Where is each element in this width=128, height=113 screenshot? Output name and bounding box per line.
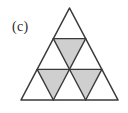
figure-container: (c) xyxy=(0,0,128,113)
triangle-cell-r1-up-1 xyxy=(53,8,85,39)
subdivided-triangle-diagram xyxy=(0,0,128,113)
